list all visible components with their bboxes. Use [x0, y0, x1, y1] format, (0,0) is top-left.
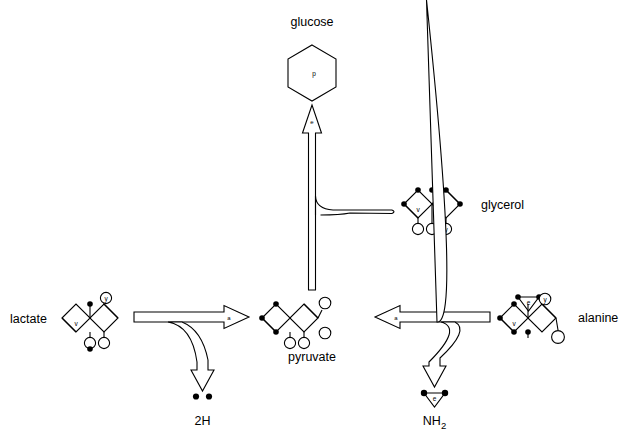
alanine-node-3	[511, 301, 517, 307]
alanine-node-6	[525, 329, 531, 335]
alanine-node-1	[515, 294, 521, 300]
alanine-circle-bottom	[552, 331, 565, 344]
2h-dot-2	[206, 393, 212, 399]
glucose-hexagon: p	[288, 45, 336, 101]
pyruvate-circle-2	[298, 337, 309, 348]
alanine-triangle-mark: e	[527, 299, 531, 306]
glycerol-circle-1	[412, 223, 423, 234]
metabolic-pathway-diagram: glucose p e v y glycerol	[0, 0, 624, 444]
lactate-circle-2	[98, 337, 109, 348]
byproduct-2h	[193, 393, 212, 399]
nh2-dot-1	[421, 390, 427, 396]
arrow-branch-2h	[168, 322, 214, 391]
molecule-lactate: v y	[62, 292, 118, 351]
glycerol-label: glycerol	[481, 198, 524, 212]
lactate-label: lactate	[10, 312, 47, 326]
arrow-lactate-to-pyruvate: a	[134, 306, 249, 329]
glycerol-diamond-mark: v	[416, 206, 420, 213]
nh2-label: NH2	[423, 414, 446, 431]
molecule-pyruvate	[259, 297, 331, 348]
arrow-glycerol-merge	[316, 196, 395, 215]
glucose-label: glucose	[290, 15, 333, 29]
molecule-alanine: e v y	[497, 293, 564, 343]
glycerol-node-1	[415, 187, 421, 193]
alanine-node-4	[497, 315, 503, 321]
byproduct-nh2: e	[421, 390, 448, 407]
nh2-triangle-mark: e	[433, 395, 437, 402]
pyruvate-circle-1	[284, 337, 295, 348]
alanine-node-5	[511, 329, 517, 335]
pyruvate-node-3	[273, 329, 279, 335]
glycerol-node-4	[401, 201, 407, 207]
2h-dot-1	[193, 393, 199, 399]
molecule-glycerol: v y	[401, 187, 463, 234]
pyruvate-circle-3	[319, 327, 331, 339]
arrow-pyruvate-to-glucose: e	[303, 105, 322, 290]
pyruvate-node-2	[259, 315, 265, 321]
arrow-alanine-to-pyruvate: a	[375, 306, 490, 329]
glycerol-node-5	[457, 201, 463, 207]
pyruvate-circle-top	[319, 297, 331, 309]
nh2-dot-2	[442, 390, 448, 396]
lactate-node-2	[87, 346, 93, 352]
glucose-ring-mark: p	[312, 70, 316, 78]
lactate-node-1	[87, 301, 93, 307]
alanine-diamond-mark: v	[512, 320, 516, 327]
2h-label: 2H	[195, 414, 211, 428]
pyruvate-label: pyruvate	[288, 350, 336, 364]
arrow-branch-nh2	[423, 0, 460, 387]
alanine-label: alanine	[578, 311, 618, 325]
diagram-canvas: glucose p e v y glycerol	[0, 0, 624, 444]
pyruvate-node-1	[273, 301, 279, 307]
lactate-diamond-mark: v	[74, 320, 78, 327]
